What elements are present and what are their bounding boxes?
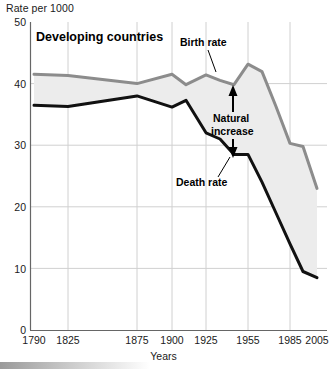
page-edge-shadow xyxy=(0,362,150,369)
chart-title: Developing countries xyxy=(36,30,163,44)
death-rate-label: Death rate xyxy=(176,176,228,188)
natural-increase-label-line2: increase xyxy=(211,125,254,137)
birth-rate-label: Birth rate xyxy=(180,36,227,48)
natural-increase-label-line1: Natural xyxy=(213,112,249,124)
